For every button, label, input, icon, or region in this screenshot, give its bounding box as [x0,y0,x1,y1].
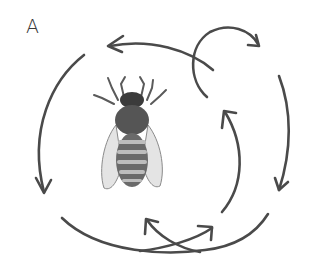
bee-thorax [115,105,149,135]
dance-path-diagram [0,0,312,267]
arrow-right-arc [275,76,289,190]
bee-illustration [94,77,166,189]
arrow-left-arc [36,55,84,193]
arrow-bottom-cross-right [140,226,212,251]
arrow-inner-right [222,111,240,212]
arrow-bottom-cross-left [145,219,200,252]
arrow-top [108,36,213,70]
